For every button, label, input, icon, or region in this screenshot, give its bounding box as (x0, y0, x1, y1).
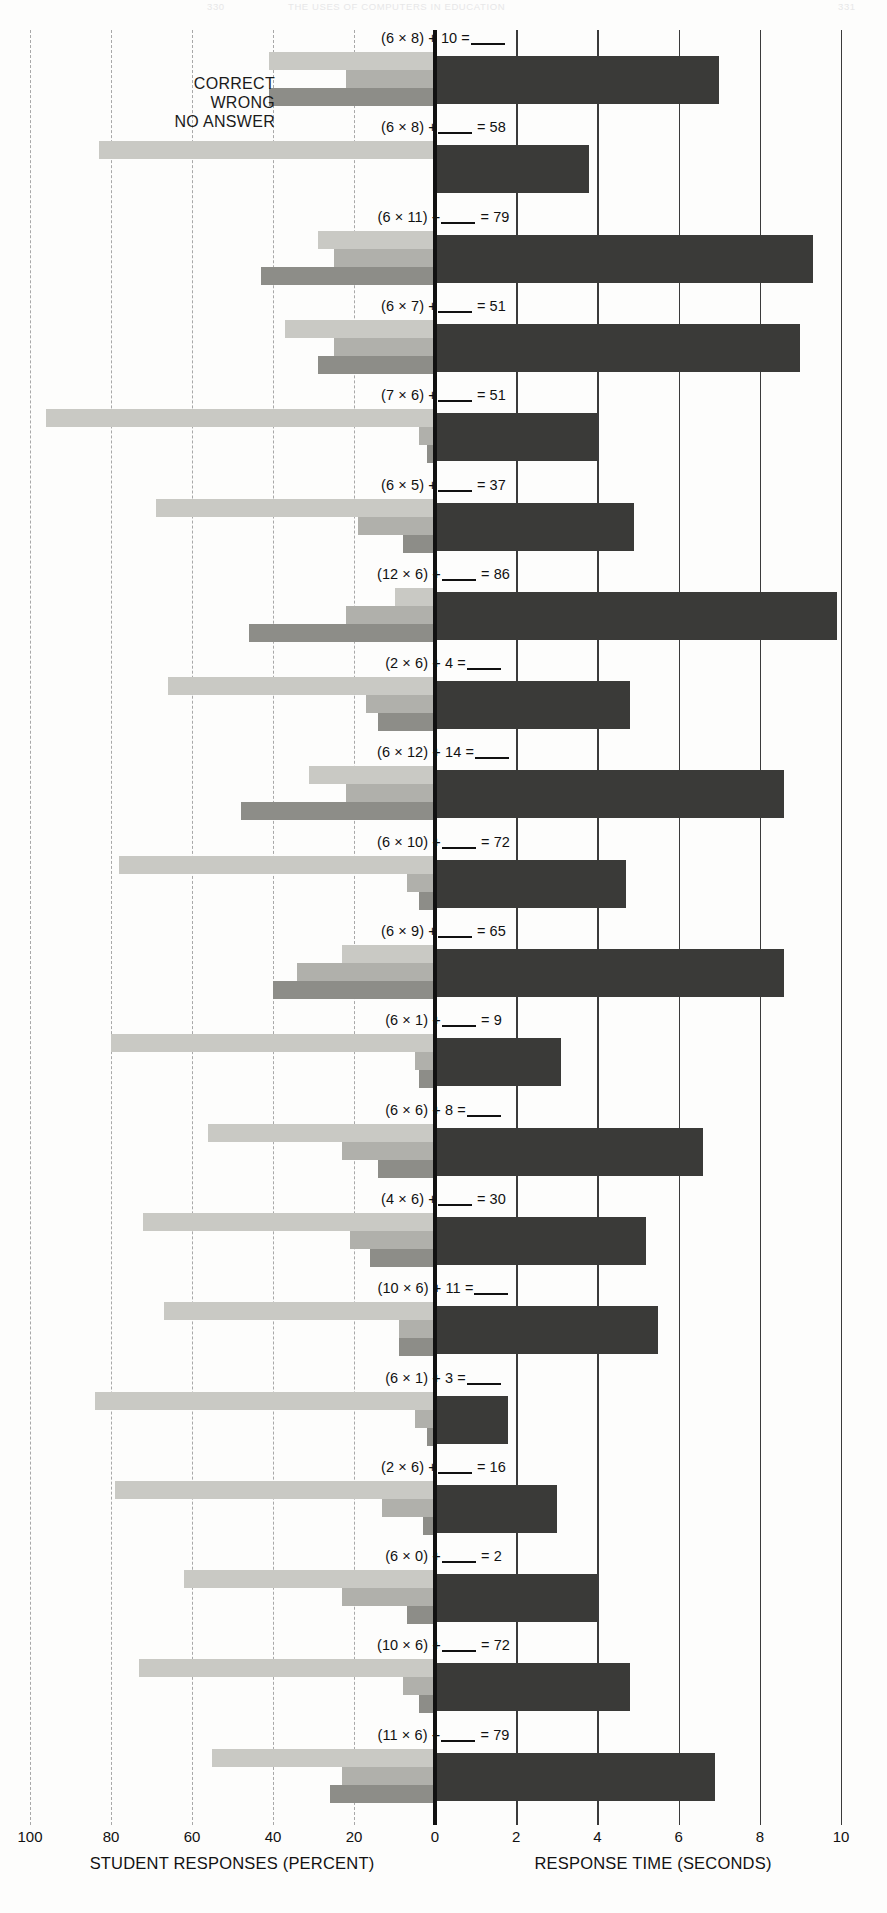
question-label: (6 × 8) + 10 = (0, 30, 887, 46)
bar-wrong (297, 963, 435, 981)
bar-correct (342, 945, 435, 963)
question-expression: (6 × 12) + 14 = (377, 744, 474, 760)
answer-blank (467, 668, 501, 670)
bar-noanswer (269, 88, 435, 106)
bar-group (0, 1659, 887, 1715)
chart-axis: 100806040200246810STUDENT RESPONSES (PER… (0, 1828, 887, 1913)
bar-correct (208, 1124, 435, 1142)
legend-item-no-answer: NO ANSWER (110, 112, 275, 131)
question-label: (6 × 12) + 14 = (0, 744, 887, 760)
answer-blank (438, 400, 472, 402)
axis-tick-seconds-4: 4 (593, 1828, 601, 1845)
bar-response-time (435, 592, 837, 640)
question-row: (6 × 10) + = 72 (0, 834, 887, 923)
question-tail: = 51 (473, 298, 506, 314)
bar-correct (139, 1659, 435, 1677)
bar-wrong (342, 1142, 435, 1160)
bar-wrong (342, 1767, 435, 1785)
answer-blank (438, 1472, 472, 1474)
bar-response-time (435, 1663, 630, 1711)
question-row: (6 × 5) + = 37 (0, 477, 887, 566)
question-expression: (4 × 6) + (381, 1191, 437, 1207)
bar-wrong (403, 1677, 435, 1695)
bar-group (0, 1213, 887, 1269)
axis-tick-percent-80: 80 (103, 1828, 120, 1845)
question-expression: (6 × 8) + (381, 119, 437, 135)
axis-tick-percent-40: 40 (265, 1828, 282, 1845)
bar-noanswer (261, 267, 435, 285)
question-tail: = 79 (476, 209, 509, 225)
question-label: (6 × 1) + = 9 (0, 1012, 887, 1028)
answer-blank (442, 1025, 476, 1027)
bar-group (0, 141, 887, 197)
bar-group (0, 1749, 887, 1805)
figure-page: 330 THE USES OF COMPUTERS IN EDUCATION 3… (0, 0, 887, 1913)
bar-group (0, 499, 887, 555)
bar-response-time (435, 1128, 703, 1176)
question-label: (6 × 11) + = 79 (0, 209, 887, 225)
bar-correct (95, 1392, 435, 1410)
answer-blank (442, 847, 476, 849)
question-label: (4 × 6) + = 30 (0, 1191, 887, 1207)
running-head: 330 THE USES OF COMPUTERS IN EDUCATION 3… (0, 0, 887, 14)
bar-noanswer (249, 624, 435, 642)
bar-correct (46, 409, 435, 427)
axis-tick-percent-20: 20 (346, 1828, 363, 1845)
question-row: (7 × 6) + = 51 (0, 387, 887, 476)
question-expression: (6 × 11) + (378, 209, 441, 225)
bar-noanswer (403, 535, 435, 553)
bar-correct (143, 1213, 435, 1231)
question-label: (6 × 6) + 8 = (0, 1102, 887, 1118)
answer-blank (442, 579, 476, 581)
bar-group (0, 320, 887, 376)
bar-wrong (382, 1499, 435, 1517)
bar-wrong (346, 70, 435, 88)
axis-tick-percent-0: 0 (431, 1828, 439, 1845)
question-expression: (2 × 6) + (381, 1459, 437, 1475)
answer-blank (442, 1650, 476, 1652)
question-expression: (6 × 1) + 3 = (385, 1370, 466, 1386)
bar-response-time (435, 145, 589, 193)
axis-tick-percent-100: 100 (17, 1828, 42, 1845)
question-label: (7 × 6) + = 51 (0, 387, 887, 403)
bar-response-time (435, 1306, 658, 1354)
question-expression: (6 × 8) + 10 = (381, 30, 470, 46)
question-expression: (12 × 6) + (377, 566, 441, 582)
chart-legend: CORRECT WRONG NO ANSWER (110, 74, 275, 131)
bar-response-time (435, 1038, 561, 1086)
axis-title-right: RESPONSE TIME (SECONDS) (534, 1854, 771, 1873)
question-row: (6 × 1) + = 9 (0, 1012, 887, 1101)
bar-response-time (435, 860, 626, 908)
bar-group (0, 1124, 887, 1180)
question-expression: (6 × 5) + (381, 477, 437, 493)
bar-correct (119, 856, 435, 874)
question-label: (6 × 7) + = 51 (0, 298, 887, 314)
question-tail: = 65 (473, 923, 506, 939)
bar-wrong (366, 695, 435, 713)
question-row: (6 × 8) + = 58 (0, 119, 887, 208)
bar-wrong (346, 606, 435, 624)
answer-blank (438, 311, 472, 313)
bar-response-time (435, 1574, 597, 1622)
bar-correct (309, 766, 435, 784)
question-expression: (6 × 10) + (377, 834, 441, 850)
question-row: (10 × 6) + 11 = (0, 1280, 887, 1369)
answer-blank (438, 132, 472, 134)
bar-wrong (342, 1588, 435, 1606)
bar-wrong (415, 1410, 435, 1428)
bar-wrong (399, 1320, 435, 1338)
bar-noanswer (330, 1785, 435, 1803)
bar-group (0, 231, 887, 287)
bar-group (0, 677, 887, 733)
bar-correct (318, 231, 435, 249)
bar-group (0, 588, 887, 644)
bar-response-time (435, 56, 719, 104)
bar-group (0, 1302, 887, 1358)
bar-group (0, 856, 887, 912)
bar-wrong (407, 874, 435, 892)
question-label: (6 × 0) + = 2 (0, 1548, 887, 1564)
bar-correct (269, 52, 435, 70)
answer-blank (441, 222, 475, 224)
axis-tick-seconds-10: 10 (833, 1828, 850, 1845)
question-expression: (10 × 6) + (377, 1637, 441, 1653)
